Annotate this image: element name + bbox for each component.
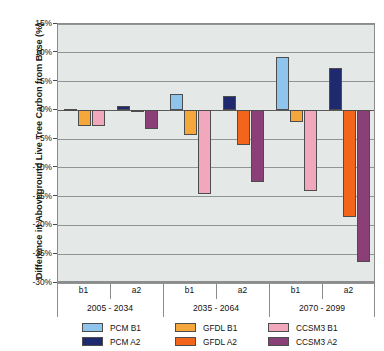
x-axis-divider — [110, 282, 111, 299]
gridline-10% — [58, 52, 374, 53]
bar-pcm-a2-2035-2064-a2 — [223, 96, 237, 110]
legend-label: GFDL B1 — [203, 323, 237, 333]
legend-label: GFDL A2 — [203, 337, 237, 347]
bar-gfdl-a2-2070-2099-a2 — [343, 110, 357, 216]
legend-swatch-ccsm3-b1 — [268, 323, 289, 332]
y-tick-label: 15% — [12, 18, 52, 28]
bar-gfdl-b1-2035-2064-b1 — [184, 110, 198, 134]
y-tick-label: 10% — [12, 47, 52, 57]
y-tick-mark — [53, 166, 57, 167]
legend-swatch-ccsm3-a2 — [268, 337, 289, 346]
y-tick-label: -10% — [12, 162, 52, 172]
bar-pcm-b1-2035-2064-b1 — [170, 94, 184, 110]
y-tick-mark — [53, 23, 57, 24]
legend-swatch-pcm-b1 — [82, 323, 103, 332]
y-tick-mark — [53, 195, 57, 196]
y-tick-mark — [53, 80, 57, 81]
y-tick-mark — [53, 109, 57, 110]
x-sub-label-b1: b1 — [163, 282, 216, 299]
legend-item: CCSM3 B1 — [268, 322, 338, 333]
bar-ccsm3-b1-2005-2034-b1 — [92, 110, 106, 126]
legend-swatch-pcm-a2 — [82, 337, 103, 346]
legend-label: PCM A2 — [110, 337, 140, 347]
y-tick-mark — [53, 51, 57, 52]
x-sub-label-a2: a2 — [322, 282, 375, 299]
gridline--20% — [58, 225, 374, 226]
bar-gfdl-b1-2070-2099-b1 — [290, 110, 304, 122]
bar-ccsm3-b1-2070-2099-b1 — [304, 110, 318, 191]
plot-area — [57, 23, 375, 282]
bar-pcm-a2-2005-2034-a2 — [117, 106, 131, 110]
y-tick-mark — [53, 224, 57, 225]
y-tick-mark — [53, 253, 57, 254]
bar-ccsm3-a2-2035-2064-a2 — [251, 110, 265, 181]
y-tick-label: -30% — [12, 277, 52, 287]
legend-swatch-gfdl-b1 — [175, 323, 196, 332]
y-tick-label: -25% — [12, 248, 52, 258]
x-axis-divider — [322, 282, 323, 299]
gridline--25% — [58, 254, 374, 255]
chart-figure: Difference in Aboveground Live Tree Carb… — [0, 0, 384, 351]
legend-item: GFDL A2 — [175, 336, 237, 347]
y-tick-mark — [53, 138, 57, 139]
x-axis-categories: b1a22005 - 2034b1a22035 - 2064b1a22070 -… — [57, 282, 375, 320]
legend-swatch-gfdl-a2 — [175, 337, 196, 346]
chart-legend: PCM B1GFDL B1CCSM3 B1PCM A2GFDL A2CCSM3 … — [82, 322, 382, 350]
legend-item: CCSM3 A2 — [268, 336, 337, 347]
legend-item: PCM B1 — [82, 322, 141, 333]
x-group-label: 2070 - 2099 — [269, 300, 375, 317]
x-axis-divider — [216, 282, 217, 299]
y-tick-label: -15% — [12, 191, 52, 201]
legend-item: GFDL B1 — [175, 322, 237, 333]
bar-gfdl-a2-2005-2034-a2 — [131, 110, 145, 112]
bar-pcm-a2-2070-2099-a2 — [329, 68, 343, 110]
x-axis-divider — [57, 282, 58, 317]
bar-gfdl-a2-2035-2064-a2 — [237, 110, 251, 145]
y-tick-label: -5% — [12, 133, 52, 143]
gridline-15% — [58, 24, 374, 25]
gridline--10% — [58, 167, 374, 168]
bar-pcm-b1-2005-2034-b1 — [64, 109, 78, 111]
x-axis-divider — [269, 282, 270, 317]
bar-ccsm3-a2-2005-2034-a2 — [145, 110, 159, 128]
legend-label: PCM B1 — [110, 323, 141, 333]
y-tick-label: 0% — [12, 104, 52, 114]
x-axis-divider — [374, 282, 375, 317]
x-sub-label-a2: a2 — [110, 282, 163, 299]
x-sub-label-b1: b1 — [269, 282, 322, 299]
legend-label: CCSM3 B1 — [296, 323, 338, 333]
gridlines — [58, 24, 374, 281]
legend-label: CCSM3 A2 — [296, 337, 337, 347]
gridline--5% — [58, 139, 374, 140]
y-tick-label: 5% — [12, 76, 52, 86]
bar-ccsm3-a2-2070-2099-a2 — [357, 110, 371, 261]
bar-pcm-b1-2070-2099-b1 — [276, 57, 290, 110]
gridline-0% — [58, 110, 374, 111]
x-group-label: 2035 - 2064 — [163, 300, 269, 317]
x-axis-divider — [163, 282, 164, 317]
x-group-label: 2005 - 2034 — [57, 300, 163, 317]
legend-item: PCM A2 — [82, 336, 140, 347]
y-tick-label: -20% — [12, 219, 52, 229]
x-sub-label-b1: b1 — [57, 282, 110, 299]
bar-gfdl-b1-2005-2034-b1 — [78, 110, 92, 126]
bar-ccsm3-b1-2035-2064-b1 — [198, 110, 212, 193]
gridline-5% — [58, 81, 374, 82]
gridline--15% — [58, 196, 374, 197]
x-sub-label-a2: a2 — [216, 282, 269, 299]
